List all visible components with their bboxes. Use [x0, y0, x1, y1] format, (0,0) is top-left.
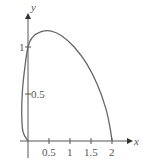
y-axis-label: y	[31, 2, 36, 13]
y-tick-0.5: 0.5	[31, 89, 45, 100]
x-tick-2: 2	[109, 147, 115, 158]
y-tick-1: 1	[19, 42, 25, 53]
plot-area	[0, 0, 143, 161]
x-tick-1: 1	[67, 147, 73, 158]
parametric-curve-chart: y x 1 0.5 0.5 1 1.5 2	[0, 0, 143, 161]
x-tick-0.5: 0.5	[42, 147, 56, 158]
curve-line	[22, 31, 112, 141]
x-axis-label: x	[134, 136, 139, 147]
x-tick-1.5: 1.5	[84, 147, 98, 158]
